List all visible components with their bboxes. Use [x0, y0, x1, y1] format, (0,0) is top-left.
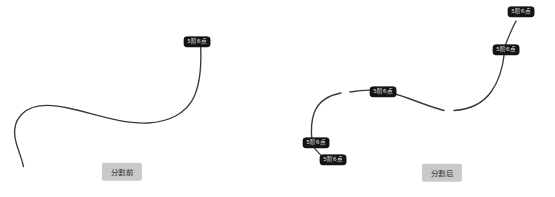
tag-order-points-bottom-left[interactable]: 5阶6点 [320, 155, 346, 165]
tag-order-points-middle[interactable]: 5阶6点 [370, 87, 396, 97]
panel-before-segmentation: 5阶6点 分割前 [0, 0, 277, 197]
figure-canvas: 5阶6点 分割前 5阶6点 5阶6点 5阶6点 5阶6点 5阶6点 [0, 0, 555, 197]
tag-order-points-top-right[interactable]: 5阶6点 [508, 7, 534, 17]
tag-order-points-right[interactable]: 5阶6点 [493, 45, 519, 55]
after-tag-connector-upper [505, 21, 516, 47]
after-curve-segment-2 [350, 90, 444, 110]
tag-order-points-lower-left[interactable]: 5阶6点 [303, 138, 329, 148]
after-curve-group [278, 0, 555, 197]
after-curve-segment-1 [311, 93, 341, 142]
panel-after-segmentation: 5阶6点 5阶6点 5阶6点 5阶6点 5阶6点 分割后 [278, 0, 555, 197]
caption-before-segmentation[interactable]: 分割前 [102, 163, 142, 181]
tag-order-points[interactable]: 5阶6点 [184, 37, 210, 47]
after-curve-segment-3 [454, 53, 505, 111]
before-curve-path [15, 43, 201, 167]
caption-after-segmentation[interactable]: 分割后 [422, 164, 462, 182]
